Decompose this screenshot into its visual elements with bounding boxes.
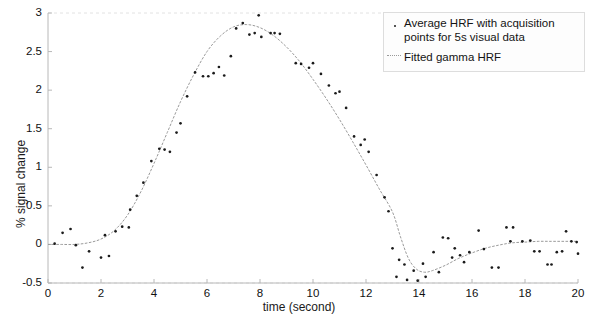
x-tick-label: 12 — [346, 287, 386, 299]
x-tick-label: 20 — [558, 287, 598, 299]
chart-figure: 02468101214161820 -0.500.511.522.53 time… — [0, 0, 598, 318]
legend-line-marker-icon — [387, 55, 401, 56]
legend-label-fitted-gamma-hrf: Fitted gamma HRF — [404, 50, 501, 64]
x-tick-marks — [48, 279, 578, 283]
x-tick-label: 0 — [28, 287, 68, 299]
x-tick-label: 6 — [187, 287, 227, 299]
legend-label-average-hrf-line1: Average HRF with acquisition — [404, 16, 584, 30]
y-axis-title: % signal change — [14, 140, 28, 228]
x-tick-label: 14 — [399, 287, 439, 299]
y-tick-label: 0 — [2, 237, 42, 249]
y-tick-label: 2.5 — [2, 45, 42, 57]
legend-label-average-hrf: Average HRF with acquisition points for … — [404, 16, 584, 44]
y-tick-label: 1.5 — [2, 122, 42, 134]
x-tick-label: 18 — [505, 287, 545, 299]
x-tick-label: 10 — [293, 287, 333, 299]
x-tick-label: 2 — [81, 287, 121, 299]
x-tick-label: 4 — [134, 287, 174, 299]
x-tick-label: 8 — [240, 287, 280, 299]
x-axis-title: time (second) — [0, 300, 598, 314]
x-tick-label: 16 — [452, 287, 492, 299]
y-tick-marks — [48, 13, 52, 283]
y-tick-label: 3 — [2, 6, 42, 18]
legend-label-average-hrf-line2: points for 5s visual data — [404, 30, 584, 44]
y-tick-label: -0.5 — [2, 276, 42, 288]
y-tick-label: 2 — [2, 83, 42, 95]
